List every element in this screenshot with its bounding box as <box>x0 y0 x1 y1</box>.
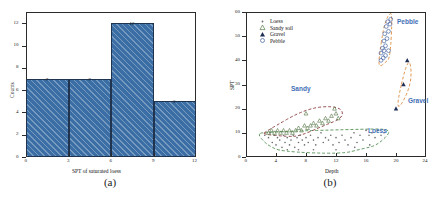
scatter-point <box>279 139 281 141</box>
y-tick <box>242 109 246 110</box>
y-tick <box>22 68 26 69</box>
x-tick-label: 8 <box>305 158 308 163</box>
annotation-pebble: Pebble <box>397 18 418 25</box>
y-tick <box>242 36 246 37</box>
y-tick <box>22 90 26 91</box>
x-tick <box>366 153 367 157</box>
y-tick-label: 2 <box>16 131 19 136</box>
scatter-point <box>356 142 358 144</box>
y-tick-label: 0 <box>16 154 19 159</box>
scatter-point <box>288 128 292 132</box>
scatter-point <box>365 130 367 132</box>
y-tick-label: 8 <box>16 64 19 69</box>
scatter-point <box>353 132 355 134</box>
scatter-point <box>341 134 343 136</box>
x-tick <box>154 153 155 157</box>
scatter-point <box>320 132 322 134</box>
legend-label: Pebble <box>270 38 285 44</box>
x-tick <box>396 153 397 157</box>
histogram-bar-value: 7 <box>46 77 49 82</box>
scatter-point <box>298 142 300 144</box>
x-tick <box>246 153 247 157</box>
scatter-point <box>275 144 277 146</box>
panel-b-caption: (b) <box>220 176 440 188</box>
histogram-bar-value: 7 <box>88 77 91 82</box>
scatter-point <box>286 137 288 139</box>
y-tick-label: 20 <box>235 105 240 110</box>
scatter-point <box>317 137 319 139</box>
x-tick <box>26 153 27 157</box>
y-tick <box>22 23 26 24</box>
scatter-point <box>289 144 291 146</box>
scatter-point <box>304 112 308 116</box>
scatter-legend: Loess Sandy soil Gravel Pebble <box>258 18 293 44</box>
scatter-point <box>405 58 409 62</box>
scatter-point <box>384 25 388 29</box>
scatter-point <box>347 144 349 146</box>
x-tick <box>425 153 426 157</box>
panel-a-histogram: 7 7 12 5 0 3 6 9 12 0 2 4 6 8 10 12 SPT … <box>0 0 220 197</box>
scatter-point <box>281 147 283 149</box>
histogram-bar-2 <box>111 23 154 157</box>
y-tick-label: 0 <box>238 154 241 159</box>
y-tick <box>22 157 26 158</box>
y-tick-label: 40 <box>235 57 240 62</box>
scatter-point <box>336 116 340 120</box>
x-tick-label: 9 <box>152 158 155 163</box>
x-axis-title: SPT of saturated loess <box>72 168 121 174</box>
x-tick-label: 12 <box>192 158 197 163</box>
scatter-point <box>335 149 337 151</box>
scatter-point <box>290 139 292 141</box>
scatter-point <box>368 134 370 136</box>
scatter-point <box>350 137 352 139</box>
scatter-point <box>304 144 306 146</box>
x-axis-title: Depth <box>325 168 338 174</box>
panel-b-scatter: Loess Sandy soil Gravel Pebble <box>220 0 440 197</box>
histogram-bar-3 <box>154 101 197 157</box>
histogram-bar-value: 5 <box>173 99 176 104</box>
scatter-point <box>374 137 376 139</box>
scatter-point <box>380 134 382 136</box>
annotation-gravel: Gravel <box>408 97 428 104</box>
open-circle-icon <box>258 37 269 44</box>
y-tick-label: 10 <box>235 129 240 134</box>
scatter-point <box>387 29 391 33</box>
y-tick-label: 10 <box>14 42 19 47</box>
y-tick-label: 4 <box>16 109 19 114</box>
scatter-point <box>312 121 316 125</box>
y-axis-title: SPT <box>229 81 235 90</box>
scatter-point <box>283 134 285 136</box>
scatter-point <box>271 142 273 144</box>
y-tick <box>242 85 246 86</box>
scatter-point <box>292 134 294 136</box>
figure-container: 7 7 12 5 0 3 6 9 12 0 2 4 6 8 10 12 SPT … <box>0 0 440 197</box>
x-tick <box>306 153 307 157</box>
scatter-point <box>286 149 288 151</box>
scatter-point <box>384 44 388 48</box>
y-tick-label: 50 <box>235 33 240 38</box>
scatter-point <box>324 116 328 120</box>
scatter-point <box>299 134 301 136</box>
y-tick <box>242 133 246 134</box>
y-axis-title: Counts <box>9 82 15 98</box>
x-tick-label: 16 <box>364 158 369 163</box>
x-tick <box>111 153 112 157</box>
scatter-point <box>294 147 296 149</box>
x-tick-label: 12 <box>334 158 339 163</box>
scatter-point <box>277 137 279 139</box>
scatter-point <box>298 149 300 151</box>
scatter-point <box>313 139 315 141</box>
x-tick <box>336 153 337 157</box>
y-tick <box>22 46 26 47</box>
histogram-bar-value: 12 <box>130 21 135 26</box>
scatter-point <box>338 142 340 144</box>
y-tick-label: 60 <box>235 9 240 14</box>
scatter-point <box>383 32 387 36</box>
scatter-point <box>297 126 301 130</box>
scatter-point <box>305 137 307 139</box>
scatter-point <box>284 142 286 144</box>
y-tick-label: 12 <box>14 20 19 25</box>
x-tick-label: 24 <box>423 158 428 163</box>
scatter-point <box>359 134 361 136</box>
scatter-point <box>344 139 346 141</box>
